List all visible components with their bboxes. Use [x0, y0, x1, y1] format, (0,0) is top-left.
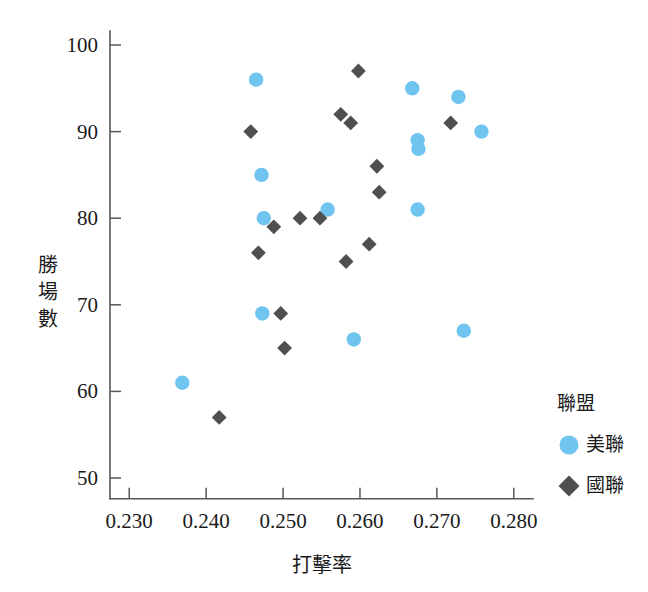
x-tick-label: 0.240 [183, 509, 230, 533]
legend-label: 國聯 [586, 474, 624, 496]
data-point-circle [254, 168, 268, 182]
legend: 聯盟美聯國聯 [557, 392, 624, 497]
data-point-diamond [339, 254, 354, 269]
scatter-chart-figure: 50607080901000.2300.2400.2500.2600.2700.… [0, 0, 648, 592]
data-point-circle [249, 72, 263, 86]
data-point-diamond [293, 211, 308, 226]
data-point-diamond [362, 237, 377, 252]
legend-label: 美聯 [586, 433, 624, 455]
y-tick-label: 70 [77, 293, 98, 317]
y-axis-title-char: 數 [38, 307, 58, 331]
data-point-circle [457, 324, 471, 338]
data-point-circle [257, 211, 271, 225]
axes [110, 31, 533, 499]
y-tick-label: 60 [77, 379, 98, 403]
x-tick-label: 0.250 [259, 509, 306, 533]
y-axis-title-char: 場 [38, 280, 58, 304]
data-point-circle [175, 376, 189, 390]
y-axis-title-char: 勝 [38, 253, 58, 277]
data-point-diamond [273, 306, 288, 321]
y-tick-label: 100 [67, 33, 99, 57]
x-tick-label: 0.280 [490, 509, 537, 533]
legend-title: 聯盟 [557, 392, 595, 414]
data-point-circle [474, 124, 488, 138]
axis-ticks [110, 45, 514, 499]
chart-canvas: 50607080901000.2300.2400.2500.2600.2700.… [0, 0, 648, 592]
data-point-diamond [351, 64, 366, 79]
legend-marker-diamond [559, 476, 580, 497]
data-points [175, 64, 489, 425]
x-tick-label: 0.230 [106, 509, 153, 533]
data-point-circle [405, 81, 419, 95]
legend-marker-circle [560, 436, 579, 455]
data-point-circle [347, 332, 361, 346]
y-tick-label: 80 [77, 206, 98, 230]
data-point-diamond [251, 245, 266, 260]
data-point-diamond [369, 159, 384, 174]
x-tick-label: 0.270 [413, 509, 460, 533]
data-point-diamond [212, 410, 227, 425]
y-tick-label: 50 [77, 466, 98, 490]
data-point-circle [255, 306, 269, 320]
data-point-circle [451, 90, 465, 104]
x-axis-title: 打擊率 [292, 553, 352, 577]
data-point-circle [411, 142, 425, 156]
data-point-diamond [443, 116, 458, 131]
y-tick-label: 90 [77, 120, 98, 144]
data-point-diamond [333, 107, 348, 122]
data-point-diamond [372, 185, 387, 200]
data-point-diamond [343, 116, 358, 131]
data-point-diamond [243, 124, 258, 139]
axis-tick-labels: 50607080901000.2300.2400.2500.2600.2700.… [67, 33, 538, 533]
x-tick-label: 0.260 [336, 509, 383, 533]
data-point-diamond [277, 341, 292, 356]
data-point-circle [410, 202, 424, 216]
